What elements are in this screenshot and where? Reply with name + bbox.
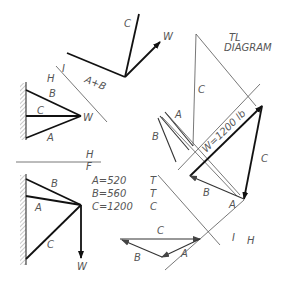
label-b: B bbox=[152, 131, 159, 142]
b-vector bbox=[190, 176, 244, 199]
wall-hatch bbox=[20, 83, 26, 140]
fold-line-h-f: H F bbox=[16, 149, 101, 172]
label-a: A bbox=[34, 202, 42, 213]
label-a-plus-b: A+B bbox=[82, 73, 108, 92]
results-block: A=520 T B=560 T C=1200 C bbox=[91, 175, 157, 212]
member-a-plus-b bbox=[67, 53, 125, 77]
label-c: C bbox=[261, 153, 268, 164]
top-view-truss: B C A W bbox=[20, 82, 94, 143]
load-w-arrow-top bbox=[125, 42, 160, 77]
label-i: I bbox=[232, 232, 235, 243]
label-a: A bbox=[180, 248, 188, 259]
label-a: A bbox=[46, 132, 54, 143]
result-b-type: T bbox=[150, 188, 157, 199]
result-c: C=1200 bbox=[92, 201, 133, 212]
label-h: H bbox=[86, 149, 94, 160]
label-b: B bbox=[51, 178, 58, 189]
title-diagram: DIAGRAM bbox=[224, 42, 272, 53]
label-fold-h: H bbox=[47, 73, 55, 84]
front-view-truss: B A C W bbox=[20, 174, 88, 272]
label-c: C bbox=[124, 18, 131, 29]
label-fold-i: I bbox=[62, 63, 65, 74]
force-diagram-canvas: C W A+B I H B C A W H F B A C W bbox=[0, 0, 297, 281]
aux-view-top: C W A+B bbox=[67, 14, 174, 92]
result-b: B=560 bbox=[92, 188, 126, 199]
wall-hatch bbox=[20, 175, 26, 265]
label-b: B bbox=[134, 252, 141, 263]
label-c: C bbox=[157, 225, 164, 236]
label-w-1200: W=1200 lb bbox=[200, 108, 248, 155]
label-w: W bbox=[163, 31, 174, 42]
label-a: A bbox=[174, 109, 182, 120]
label-f: F bbox=[86, 161, 92, 172]
label-b: B bbox=[203, 187, 210, 198]
result-a-type: T bbox=[150, 175, 157, 186]
label-c: C bbox=[198, 84, 205, 95]
label-w: W bbox=[83, 112, 94, 123]
label-w: W bbox=[77, 261, 88, 272]
force-polygon: C B A bbox=[120, 225, 200, 263]
b-vector bbox=[122, 240, 162, 257]
label-b: B bbox=[49, 88, 56, 99]
label-c: C bbox=[47, 239, 54, 250]
label-h: H bbox=[247, 235, 255, 246]
label-c: C bbox=[37, 105, 44, 116]
label-a: A bbox=[228, 199, 236, 210]
tl-diagram: TL DIAGRAM C A B W=1200 lb C B A H I bbox=[152, 32, 272, 270]
result-a: A=520 bbox=[91, 175, 126, 186]
result-c-type: C bbox=[150, 201, 157, 212]
